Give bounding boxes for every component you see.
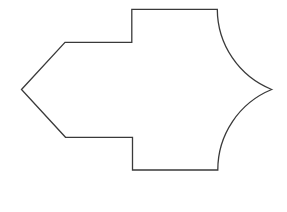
arrow-shape-outline <box>22 9 272 170</box>
diagram-canvas <box>0 0 287 212</box>
arrow-shape-diagram <box>0 0 287 212</box>
